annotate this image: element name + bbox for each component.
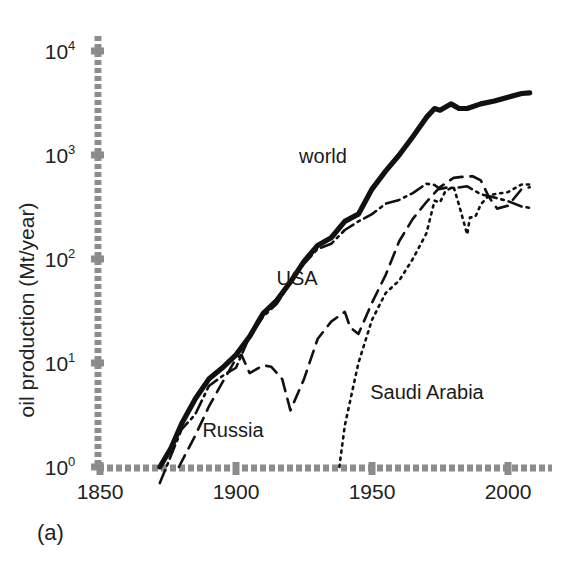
x-tick-label-1900: 1900: [213, 480, 260, 503]
x-tick-label-2000: 2000: [485, 480, 532, 503]
x-tick-labels: 1850 1900 1950 2000: [77, 480, 532, 503]
y-tick-label-1e0: 100: [45, 454, 76, 479]
y-tick-label-1e3: 103: [45, 142, 76, 167]
panel-caption: (a): [37, 520, 64, 545]
y-tick-label-1e1: 101: [45, 350, 76, 375]
series-label-russia: Russia: [202, 419, 264, 441]
figure-panel-a: 100 101 102 103 104 1850 1900 1950 2000 …: [0, 0, 566, 565]
x-tick-label-1950: 1950: [349, 480, 396, 503]
y-tick-label-1e2: 102: [45, 246, 76, 271]
curve-saudi: [339, 185, 529, 467]
y-tick-labels: 100 101 102 103 104: [45, 38, 76, 479]
y-axis-title: oil production (Mt/year): [15, 203, 38, 418]
y-tick-label-1e4: 104: [45, 38, 76, 63]
series-label-usa: USA: [276, 267, 318, 289]
series-label-saudi-arabia: Saudi Arabia: [370, 381, 484, 403]
oil-production-chart: 100 101 102 103 104 1850 1900 1950 2000 …: [0, 0, 566, 565]
x-tick-label-1850: 1850: [77, 480, 124, 503]
series-label-world: world: [298, 145, 347, 167]
